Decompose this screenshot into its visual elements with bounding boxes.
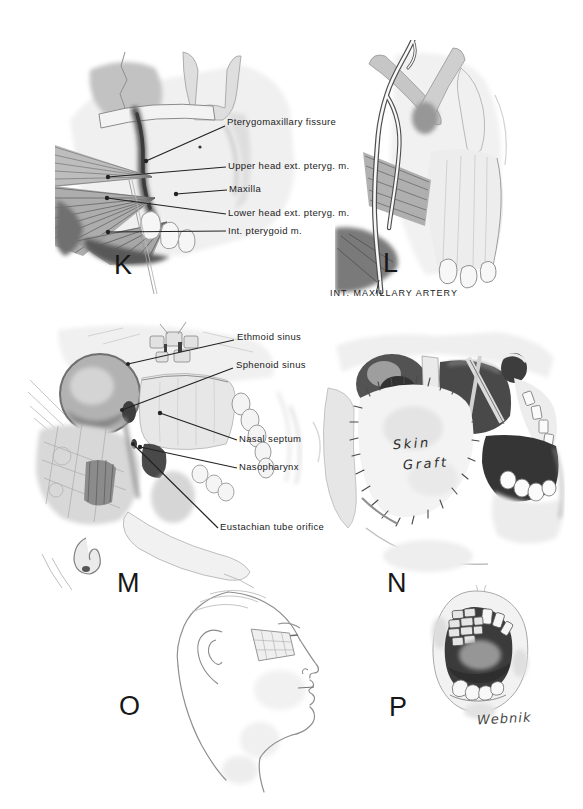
figure-letter-m: M: [117, 568, 140, 599]
illustration-l-internal-maxillary-artery: [335, 40, 530, 295]
label-maxilla: Maxilla: [229, 183, 261, 194]
caption-int-maxillary-artery: INT. MAXILLARY ARTERY: [330, 288, 458, 298]
figure-letter-o: O: [119, 691, 140, 722]
label-ethmoid-sinus: Ethmoid sinus: [237, 331, 301, 342]
figure-letter-k: K: [114, 250, 132, 281]
illustration-o-face-profile: [140, 580, 355, 809]
artist-signature: Webnik: [477, 710, 532, 728]
label-nasal-septum: Nasal septum: [239, 433, 301, 444]
label-nasopharynx: Nasopharynx: [239, 461, 299, 472]
label-pterygomaxillary-fissure: Pterygomaxillary fissure: [227, 116, 336, 127]
anatomical-figure-plate: Pterygomaxillary fissure Upper head ext.…: [0, 0, 583, 809]
annotation-graft: Graft: [403, 454, 449, 472]
figure-letter-p: P: [389, 692, 407, 723]
figure-letter-n: N: [387, 568, 407, 599]
label-eustachian-tube-orifice: Eustachian tube orifice: [220, 521, 324, 532]
label-upper-head-ext-pterygoid: Upper head ext. pteryg. m.: [228, 160, 350, 171]
illustration-k-pterygoid-muscles: [55, 50, 335, 295]
label-sphenoid-sinus: Sphenoid sinus: [236, 359, 306, 370]
label-int-pterygoid: Int. pterygoid m.: [228, 225, 302, 236]
label-lower-head-ext-pterygoid: Lower head ext. pteryg. m.: [228, 207, 350, 218]
annotation-skin: Skin: [393, 435, 432, 453]
figure-letter-l: L: [383, 248, 398, 279]
